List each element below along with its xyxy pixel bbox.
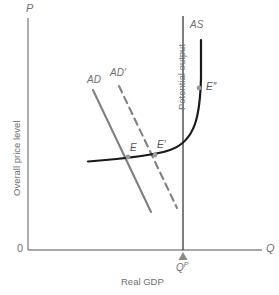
point-marker-e bbox=[126, 155, 131, 160]
as-curve-label: AS bbox=[190, 20, 203, 30]
y-axis-title: Overall price level bbox=[12, 121, 22, 197]
qp-superscript: P bbox=[184, 261, 189, 268]
potential-output-label: Potential output bbox=[177, 44, 187, 110]
y-axis-letter: P bbox=[26, 3, 33, 14]
x-axis-title: Real GDP bbox=[121, 277, 164, 287]
point-label-e-double-prime: E″ bbox=[206, 82, 216, 92]
ad-prime-curve bbox=[119, 86, 177, 208]
potential-output-tick-marker bbox=[179, 252, 188, 260]
qp-base: Q bbox=[176, 262, 184, 273]
ad-curve-label: AD bbox=[87, 75, 101, 85]
x-axis-letter: Q bbox=[266, 243, 275, 254]
ad-prime-curve-label: AD′ bbox=[110, 68, 126, 78]
point-label-e: E bbox=[130, 143, 137, 153]
as-ad-diagram: P Q 0 AD AD′ AS E E′ E″ Potential output… bbox=[0, 0, 279, 295]
point-label-e-prime: E′ bbox=[157, 140, 166, 150]
ad-curve bbox=[93, 90, 151, 212]
point-marker-e-double-prime bbox=[197, 86, 202, 91]
origin-label: 0 bbox=[17, 243, 23, 254]
potential-output-value-label: QP bbox=[176, 261, 188, 273]
diagram-canvas bbox=[0, 0, 279, 295]
point-marker-e-prime bbox=[153, 153, 158, 158]
